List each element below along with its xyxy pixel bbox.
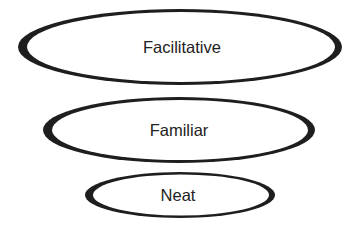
hierarchy-diagram: Facilitative Familiar Neat: [0, 0, 359, 230]
ellipse-facilitative: Facilitative: [18, 9, 342, 85]
ellipse-neat: Neat: [85, 172, 275, 218]
level-label-facilitative: Facilitative: [143, 38, 221, 56]
ellipse-familiar: Familiar: [43, 97, 315, 163]
level-label-neat: Neat: [161, 186, 196, 204]
level-label-familiar: Familiar: [150, 121, 209, 139]
